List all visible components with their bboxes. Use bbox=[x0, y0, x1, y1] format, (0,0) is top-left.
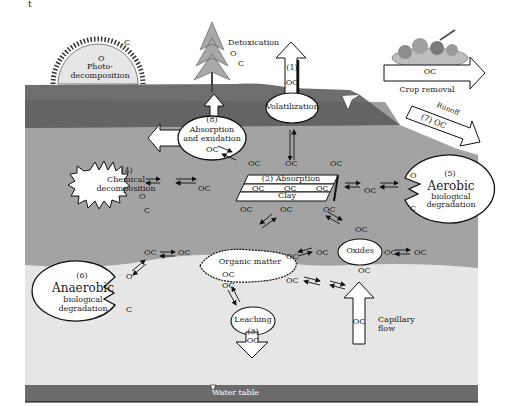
oc-below-clay-right: OC bbox=[323, 205, 336, 214]
volatilization-number: (1) bbox=[282, 64, 302, 72]
oc-clay-top-right: OC bbox=[330, 159, 343, 168]
volatilization-label: Volatilization bbox=[266, 103, 318, 111]
oc-left-of-oxides: OC bbox=[316, 248, 329, 257]
detoxication-label: Detoxication bbox=[228, 39, 279, 47]
oc-left-of-clay-top: OC bbox=[248, 159, 261, 168]
aerobic-o: O bbox=[410, 172, 417, 180]
absorption-exudation-number: (8) bbox=[202, 116, 222, 124]
crop-removal-oc: OC bbox=[410, 68, 450, 76]
leaching-oc: OC bbox=[244, 337, 262, 345]
oc-above-anaerobic: OC bbox=[144, 248, 157, 257]
oc-left-of-organic-matter: OC bbox=[178, 248, 191, 257]
stray-text: t bbox=[28, 0, 32, 9]
chemical-decomposition-label-2: decomposition bbox=[92, 185, 160, 193]
anaerobic-number: (6) bbox=[72, 272, 92, 280]
organic-matter-oc-right: OC bbox=[286, 252, 299, 261]
oc-above-oxides: OC bbox=[355, 225, 368, 234]
oc-right-below-organic-matter: OC bbox=[286, 276, 299, 285]
absorption-exudation-label-2: and exudation bbox=[178, 135, 246, 143]
oxides-label: Oxides bbox=[340, 247, 380, 255]
harvested-crops-icon bbox=[392, 30, 468, 68]
oc-right-of-oxides-2: OC bbox=[414, 248, 427, 257]
detoxication-o: O bbox=[230, 50, 237, 58]
organic-matter-oc: OC bbox=[222, 270, 235, 279]
capillary-flow-label-2: flow bbox=[378, 325, 395, 333]
absorption-clay-title: (2) Absorption bbox=[248, 175, 334, 183]
capillary-flow-oc: OC bbox=[350, 318, 368, 326]
oc-between-clay-and-aerobic: OC bbox=[364, 186, 377, 195]
anaerobic-c: C bbox=[126, 306, 132, 314]
photodecomposition-c: C bbox=[124, 39, 130, 47]
anaerobic-o: O bbox=[126, 273, 133, 281]
organic-matter-label: Organic matter bbox=[215, 258, 285, 266]
tree-icon bbox=[194, 22, 230, 92]
absorption-exudation-oc: OC bbox=[206, 146, 219, 154]
volatilization-oc: OC bbox=[282, 79, 302, 87]
aerobic-number: (5) bbox=[440, 170, 460, 178]
water-table-label: Water table bbox=[212, 389, 259, 397]
leaching-label: Leaching bbox=[233, 316, 273, 324]
oc-below-oxides: OC bbox=[358, 266, 371, 275]
oc-right-of-oxides-1: OC bbox=[384, 248, 397, 257]
aerobic-c: C bbox=[410, 205, 416, 213]
oc-between-chemical-and-clay: OC bbox=[198, 184, 211, 193]
anaerobic-label: Anaerobic bbox=[50, 282, 116, 295]
oc-below-clay-left: OC bbox=[240, 205, 253, 214]
organic-chemical-fate-diagram: t C O Photo- decomposition Detoxication … bbox=[0, 0, 513, 406]
anaerobic-label-3: degradation bbox=[50, 305, 116, 313]
oc-below-organic-matter: OC bbox=[222, 281, 235, 290]
clay-label: Clay bbox=[244, 192, 330, 200]
chemical-decomposition-c: C bbox=[144, 207, 150, 215]
oc-clay-top-center: OC bbox=[285, 159, 298, 168]
oc-below-clay-center: OC bbox=[280, 205, 293, 214]
aerobic-label-3: degradation bbox=[418, 201, 484, 209]
aerobic-label: Aerobic bbox=[424, 180, 478, 193]
detoxication-c: C bbox=[238, 60, 244, 68]
photodecomposition-label-2: decomposition bbox=[65, 72, 135, 80]
crop-removal-label: Crop removal bbox=[392, 86, 462, 94]
chemical-decomposition-o: O bbox=[139, 193, 146, 201]
